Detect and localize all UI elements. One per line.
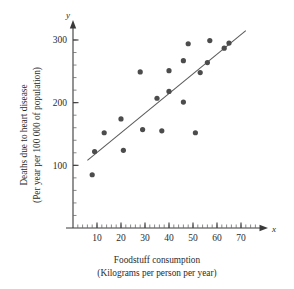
x-tick-label: 50 bbox=[188, 233, 198, 243]
regression-line bbox=[87, 31, 245, 161]
data-point bbox=[186, 41, 191, 46]
axis-tick-labels: 10203040506070100200300 bbox=[53, 35, 246, 243]
data-point bbox=[154, 96, 159, 101]
y-axis-label-units: (Per year per 100 000 of population) bbox=[32, 67, 43, 203]
y-tick-label: 200 bbox=[53, 98, 68, 108]
data-point bbox=[138, 69, 143, 74]
x-tick-label: 10 bbox=[92, 233, 102, 243]
data-points bbox=[90, 38, 232, 177]
data-point bbox=[207, 38, 212, 43]
data-point bbox=[92, 149, 97, 154]
x-axis-label: Foodstuff consumption bbox=[114, 255, 201, 265]
data-point bbox=[102, 130, 107, 135]
x-tick-label: 20 bbox=[116, 233, 126, 243]
data-point bbox=[118, 116, 123, 121]
chart-canvas: 10203040506070100200300 x y Deaths due t… bbox=[0, 0, 294, 289]
x-tick-label: 70 bbox=[236, 233, 246, 243]
data-point bbox=[181, 58, 186, 63]
data-point bbox=[205, 60, 210, 65]
x-axis-arrow bbox=[260, 225, 269, 231]
data-point bbox=[159, 128, 164, 133]
y-tick-label: 100 bbox=[53, 161, 68, 171]
x-axis-label-units: (Kilograms per person per year) bbox=[97, 268, 216, 279]
data-point bbox=[166, 68, 171, 73]
data-point bbox=[193, 130, 198, 135]
y-axis bbox=[70, 20, 76, 228]
x-axis-symbol: x bbox=[271, 224, 276, 234]
y-axis-label: Deaths due to heart disease bbox=[19, 84, 29, 185]
x-axis bbox=[66, 225, 268, 231]
y-tick-label: 300 bbox=[53, 35, 68, 45]
y-axis-arrow bbox=[70, 20, 76, 29]
data-point bbox=[166, 89, 171, 94]
y-axis-symbol: y bbox=[65, 10, 70, 20]
x-tick-label: 60 bbox=[212, 233, 222, 243]
data-point bbox=[198, 70, 203, 75]
data-point bbox=[222, 46, 227, 51]
x-tick-label: 40 bbox=[164, 233, 174, 243]
data-point bbox=[181, 99, 186, 104]
data-point bbox=[226, 41, 231, 46]
data-point bbox=[90, 172, 95, 177]
scatter-chart: 10203040506070100200300 x y Deaths due t… bbox=[0, 0, 294, 289]
axis-ticks bbox=[73, 40, 255, 228]
data-point bbox=[140, 127, 145, 132]
data-point bbox=[121, 148, 126, 153]
x-tick-label: 30 bbox=[140, 233, 150, 243]
